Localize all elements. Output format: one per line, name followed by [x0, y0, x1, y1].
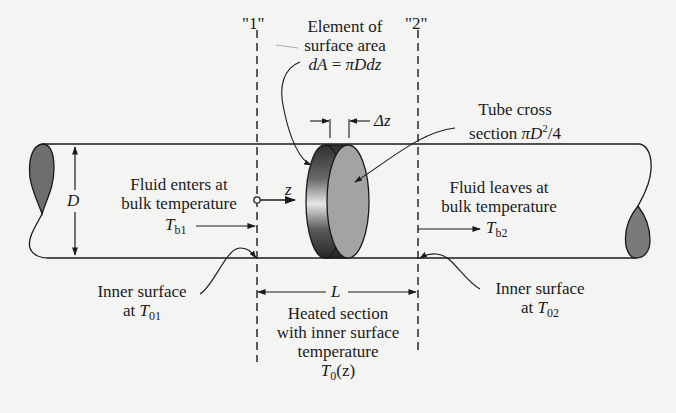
- outlet-label: Fluid leaves at bulk temperature: [424, 178, 574, 216]
- inner-surface-2-leader: [420, 254, 480, 289]
- station-1-label: "1": [242, 14, 264, 33]
- delta-z-label: Δz: [374, 111, 391, 130]
- diameter-label: D: [66, 191, 80, 210]
- disc-face: [327, 145, 369, 258]
- tube-cross-section-label: Tube cross section πD2/4: [453, 100, 577, 143]
- right-end-break-curve: [638, 144, 651, 206]
- station-2-label: "2": [405, 14, 427, 33]
- inlet-label: Fluid enters at bulk temperature: [104, 175, 254, 213]
- disc-element: [306, 145, 369, 258]
- outlet-bulk-temp-symbol: Tb2: [486, 218, 507, 243]
- element-surface-area-label: Element of surface area dA = πDdz: [291, 17, 399, 74]
- inlet-bulk-temp-symbol: Tb1: [165, 215, 186, 240]
- right-end-cap-icon: [626, 206, 651, 258]
- z-axis-label: z: [285, 180, 292, 199]
- inner-surface-1-label: Inner surface at T01: [82, 282, 202, 326]
- cross-section-leader-line: [355, 128, 455, 182]
- heated-section-label: Heated section with inner surface temper…: [262, 304, 414, 386]
- inner-surface-1-leader: [200, 248, 256, 294]
- inner-surface-2-label: Inner surface at T02: [480, 279, 600, 323]
- length-label: L: [331, 282, 340, 301]
- tube-heat-transfer-diagram: "1" "2" Element of surface area dA = πDd…: [0, 0, 676, 413]
- origin-marker: [254, 197, 260, 203]
- left-end-cap-icon: [30, 144, 55, 214]
- element-leader-line: [282, 62, 311, 165]
- left-end-break-curve: [29, 214, 48, 258]
- surface-area-formula: dA = πDdz: [291, 55, 399, 74]
- surface-temp-function: T0(z): [262, 361, 414, 386]
